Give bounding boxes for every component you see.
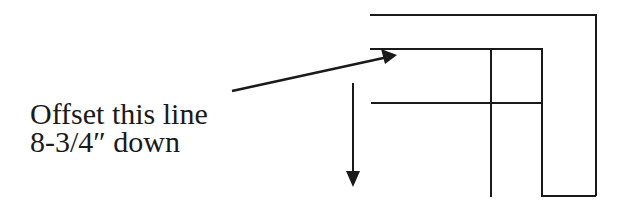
down-arrowhead-icon [346, 171, 360, 187]
target-line [370, 49, 596, 196]
outer-top-line [370, 15, 596, 196]
pointer-arrowhead-icon [381, 49, 397, 64]
annotation-line-2: 8-3/4″ down [30, 127, 180, 157]
pointer-arrow-icon [232, 57, 388, 91]
